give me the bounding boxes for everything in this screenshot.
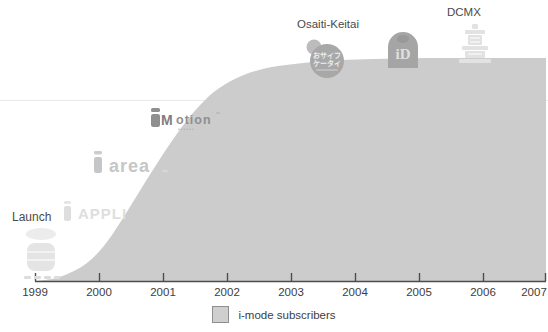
x-axis-tick-labels: 1999 2000 2001 2002 2003 2004 2005 2006 … [22, 286, 547, 298]
mobile-phone-icon [18, 226, 64, 282]
i-area-wordmark: area [109, 156, 150, 176]
i-motion-wordmark: otion [176, 113, 212, 127]
chart-container: 1999 2000 2001 2002 2003 2004 2005 2006 … [0, 0, 548, 332]
x-tick-label: 2004 [342, 286, 368, 298]
i-motion-logo: M otion •••••• [150, 108, 224, 134]
i-motion-subtext: •••••• [178, 126, 195, 132]
x-tick-label: 1999 [22, 286, 48, 298]
annotation-dcmx: DCMX [447, 6, 481, 18]
i-appli-wordmark: APPLI [78, 205, 127, 222]
chart-legend: i-mode subscribers [0, 306, 548, 323]
osaifu-keitai-badge-icon: おサイフ ケータイ [304, 36, 348, 80]
osaifu-badge-line2: ケータイ [313, 59, 341, 68]
x-tick-label: 2003 [278, 286, 304, 298]
legend-label-i-mode-subscribers: i-mode subscribers [238, 309, 335, 321]
x-tick-label: 2007 [521, 286, 547, 298]
annotation-launch: Launch [12, 210, 51, 224]
x-tick-label: 2002 [214, 286, 240, 298]
x-tick-label: 2000 [86, 286, 112, 298]
x-tick-label: 2005 [406, 286, 432, 298]
legend-swatch-i-mode-subscribers [212, 306, 229, 323]
dcmx-emblem-icon [453, 22, 497, 66]
i-motion-prefix: M [161, 112, 174, 128]
i-area-logo: area [92, 150, 174, 176]
x-tick-label: 2006 [470, 286, 496, 298]
osaifu-badge-line1: おサイフ [313, 51, 341, 60]
i-appli-logo: APPLI [62, 200, 140, 224]
x-tick-label: 2001 [150, 286, 176, 298]
id-logo: iD [384, 28, 422, 70]
id-wordmark: iD [396, 46, 411, 62]
annotation-osaifu-keitai: Osaiti-Keitai [297, 18, 359, 30]
